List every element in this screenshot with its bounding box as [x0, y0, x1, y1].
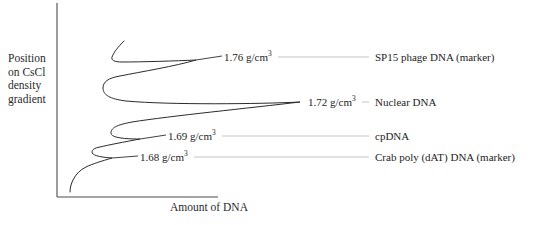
peak-pointer-0	[196, 56, 222, 60]
density-label-1-69: 1.69 g/cm3	[168, 130, 216, 143]
density-value: 1.69	[168, 130, 187, 142]
density-exponent: 3	[184, 149, 188, 158]
density-unit: g/cm	[330, 96, 352, 108]
peak-pointer-2	[140, 135, 166, 139]
x-axis-title: Amount of DNA	[170, 201, 248, 215]
density-unit: g/cm	[190, 130, 212, 142]
series-label-nuclear-dna: Nuclear DNA	[375, 96, 436, 109]
density-label-1-72: 1.72 g/cm3	[308, 96, 356, 109]
density-exponent: 3	[268, 49, 272, 58]
peak-pointer-3	[112, 156, 138, 158]
density-label-1-76: 1.76 g/cm3	[224, 51, 272, 64]
cscl-density-gradient-figure: Position on CsCl density gradient Amount…	[0, 0, 538, 225]
density-label-1-68: 1.68 g/cm3	[140, 151, 188, 164]
density-value: 1.76	[224, 51, 243, 63]
y-axis-title: Position on CsCl density gradient	[8, 52, 56, 106]
series-label-crab-poly-dat-dna: Crab poly (dAT) DNA (marker)	[375, 151, 515, 164]
density-exponent: 3	[212, 128, 216, 137]
density-unit: g/cm	[246, 51, 268, 63]
series-label-cpdna: cpDNA	[375, 130, 409, 143]
density-exponent: 3	[352, 94, 356, 103]
plot-area	[0, 0, 538, 225]
series-label-sp15-phage-dna: SP15 phage DNA (marker)	[375, 51, 494, 64]
density-unit: g/cm	[162, 151, 184, 163]
density-value: 1.68	[140, 151, 159, 163]
density-value: 1.72	[308, 96, 327, 108]
